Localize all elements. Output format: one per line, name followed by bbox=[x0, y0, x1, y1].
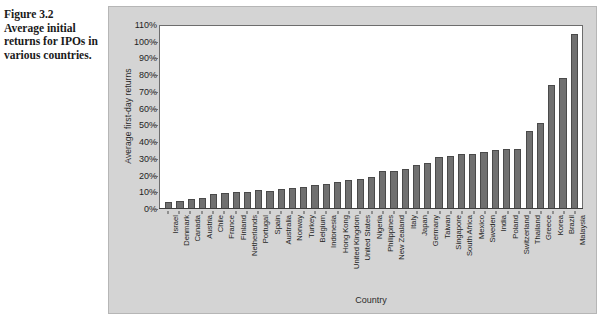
bar-slot bbox=[445, 26, 456, 209]
x-tick-mark bbox=[371, 211, 372, 214]
bar[interactable] bbox=[334, 182, 341, 209]
bar-slot bbox=[490, 26, 501, 209]
plot-area bbox=[159, 25, 583, 209]
x-label-slot: South Africa bbox=[457, 211, 468, 291]
y-tick-mark bbox=[153, 192, 158, 193]
bar[interactable] bbox=[571, 34, 578, 209]
x-tick-mark bbox=[394, 211, 395, 214]
x-tick-mark bbox=[518, 211, 519, 214]
bar[interactable] bbox=[255, 190, 262, 209]
bar[interactable] bbox=[221, 193, 228, 209]
x-tick-mark bbox=[190, 211, 191, 214]
bar[interactable] bbox=[368, 177, 375, 209]
bar[interactable] bbox=[357, 179, 364, 209]
x-label-slot: Indonesia bbox=[321, 211, 332, 291]
x-label-slot: Switzerland bbox=[513, 211, 524, 291]
x-label-slot: Austria bbox=[196, 211, 207, 291]
y-tick-label: 30% bbox=[117, 154, 157, 164]
y-tick-label: 70% bbox=[117, 87, 157, 97]
x-label-slot: United Kingdom bbox=[343, 211, 354, 291]
bar-slot bbox=[411, 26, 422, 209]
bar[interactable] bbox=[233, 192, 240, 209]
x-tick-mark bbox=[337, 211, 338, 214]
chart-panel: Average first-day returns 110%100%90%80%… bbox=[108, 6, 597, 314]
y-tick-mark bbox=[153, 142, 158, 143]
bar[interactable] bbox=[424, 163, 431, 209]
x-label-slot: Singapore bbox=[445, 211, 456, 291]
x-tick-mark bbox=[564, 211, 565, 214]
x-label-slot: Malaysia bbox=[570, 211, 581, 291]
bar[interactable] bbox=[413, 165, 420, 209]
bar-slot bbox=[433, 26, 444, 209]
y-tick-mark bbox=[153, 42, 158, 43]
bar[interactable] bbox=[244, 192, 251, 209]
figure-caption-text: Average initial returns for IPOs in vari… bbox=[4, 22, 100, 63]
x-tick-mark bbox=[280, 211, 281, 214]
x-label-slot: Brazil bbox=[558, 211, 569, 291]
bar[interactable] bbox=[278, 189, 285, 209]
y-tick-mark bbox=[153, 176, 158, 177]
bar[interactable] bbox=[469, 154, 476, 209]
x-label-slot: Israel bbox=[162, 211, 173, 291]
bar-slot bbox=[332, 26, 343, 209]
bar[interactable] bbox=[435, 157, 442, 209]
bar[interactable] bbox=[559, 78, 566, 209]
bar-slot bbox=[388, 26, 399, 209]
x-label-slot: Mexico bbox=[468, 211, 479, 291]
bar[interactable] bbox=[311, 185, 318, 209]
x-label-slot: Poland bbox=[502, 211, 513, 291]
bar[interactable] bbox=[379, 171, 386, 209]
bar[interactable] bbox=[548, 85, 555, 209]
bar[interactable] bbox=[480, 152, 487, 209]
bar[interactable] bbox=[345, 180, 352, 209]
bar[interactable] bbox=[526, 131, 533, 209]
bar[interactable] bbox=[537, 123, 544, 209]
x-label-slot: Portugal bbox=[253, 211, 264, 291]
bar-slot bbox=[264, 26, 275, 209]
x-tick-mark bbox=[167, 211, 168, 214]
bar[interactable] bbox=[210, 194, 217, 209]
x-label-slot: Italy bbox=[400, 211, 411, 291]
bar[interactable] bbox=[289, 188, 296, 209]
bar-slot bbox=[253, 26, 264, 209]
x-axis-tick-labels: IsraelDenmarkCanadaAustriaChileFranceFin… bbox=[159, 211, 583, 291]
figure-number: Figure 3.2 bbox=[4, 8, 100, 22]
bar[interactable] bbox=[300, 187, 307, 209]
bar[interactable] bbox=[390, 171, 397, 209]
bar[interactable] bbox=[514, 149, 521, 209]
y-tick-label: 110% bbox=[117, 20, 157, 30]
x-tick-mark bbox=[484, 211, 485, 214]
x-tick-mark bbox=[496, 211, 497, 214]
y-tick-label: 50% bbox=[117, 120, 157, 130]
bar-slot bbox=[422, 26, 433, 209]
bar-slot bbox=[208, 26, 219, 209]
x-axis-line bbox=[159, 208, 583, 209]
bar-slot bbox=[219, 26, 230, 209]
x-label-slot: Taiwan bbox=[434, 211, 445, 291]
bar-slot bbox=[343, 26, 354, 209]
x-label-slot: Sweden bbox=[479, 211, 490, 291]
x-tick-mark bbox=[235, 211, 236, 214]
bar[interactable] bbox=[402, 169, 409, 209]
y-tick-label: 10% bbox=[117, 187, 157, 197]
bar[interactable] bbox=[447, 156, 454, 209]
x-tick-mark bbox=[428, 211, 429, 214]
bar-series bbox=[160, 26, 582, 209]
bar[interactable] bbox=[323, 184, 330, 209]
x-label-slot: Belgium bbox=[309, 211, 320, 291]
x-tick-mark bbox=[382, 211, 383, 214]
bar[interactable] bbox=[458, 154, 465, 209]
x-axis-title: Country bbox=[159, 295, 583, 305]
bar-slot bbox=[467, 26, 478, 209]
x-label-slot: Netherlands bbox=[241, 211, 252, 291]
figure-container: Figure 3.2 Average initial returns for I… bbox=[0, 0, 601, 324]
bar[interactable] bbox=[503, 149, 510, 209]
bar-slot bbox=[569, 26, 580, 209]
bar-slot bbox=[512, 26, 523, 209]
bar[interactable] bbox=[266, 191, 273, 209]
bar[interactable] bbox=[492, 150, 499, 209]
bar-slot bbox=[366, 26, 377, 209]
x-label-slot: France bbox=[219, 211, 230, 291]
x-tick-mark bbox=[303, 211, 304, 214]
x-label-slot: Chile bbox=[207, 211, 218, 291]
